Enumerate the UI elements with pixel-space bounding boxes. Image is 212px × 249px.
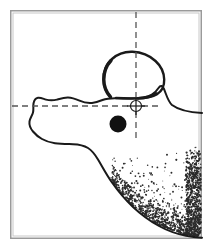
stipple-dot xyxy=(130,172,132,174)
stipple-dot xyxy=(189,204,191,206)
stipple-dot xyxy=(200,203,202,205)
stipple-dot xyxy=(181,197,183,199)
stipple-dot xyxy=(194,150,195,151)
stipple-dot xyxy=(157,220,159,222)
stipple-dot xyxy=(199,171,200,172)
stipple-dot xyxy=(138,194,139,195)
stipple-dot xyxy=(193,165,194,166)
stipple-dot xyxy=(158,212,159,213)
stipple-dot xyxy=(128,200,129,201)
stipple-dot xyxy=(172,219,174,221)
stipple-dot xyxy=(148,190,149,191)
stipple-dot xyxy=(138,204,140,206)
stipple-dot xyxy=(139,189,141,191)
stipple-dot xyxy=(195,200,197,202)
stipple-dot xyxy=(197,210,199,212)
stipple-dot xyxy=(129,158,131,160)
stipple-dot xyxy=(198,191,200,193)
stipple-dot xyxy=(173,207,175,209)
stipple-dot xyxy=(158,218,159,219)
stipple-dot xyxy=(168,223,169,224)
stipple-dot xyxy=(141,211,142,212)
stipple-dot xyxy=(122,167,124,169)
stipple-dot xyxy=(165,202,166,203)
stipple-dot xyxy=(124,180,125,181)
stipple-dot xyxy=(193,197,194,198)
stipple-dot xyxy=(157,218,158,219)
figure-root: Lateral anatomical outline tracing with … xyxy=(0,0,212,249)
stipple-dot xyxy=(195,179,197,181)
stipple-dot xyxy=(162,225,163,226)
stipple-dot xyxy=(184,204,186,206)
stipple-dot xyxy=(125,187,126,188)
stipple-dot xyxy=(136,195,137,196)
stipple-dot xyxy=(181,220,183,222)
stipple-dot xyxy=(138,199,139,200)
stipple-dot xyxy=(164,220,166,222)
stipple-dot xyxy=(189,173,190,174)
stipple-dot xyxy=(191,171,192,172)
stipple-dot xyxy=(180,227,182,229)
stipple-dot xyxy=(170,172,172,174)
stipple-dot xyxy=(162,215,163,216)
stipple-dot xyxy=(138,172,140,174)
stipple-dot xyxy=(149,204,151,206)
stipple-dot xyxy=(134,182,135,183)
stipple-dot xyxy=(157,166,159,168)
stipple-dot xyxy=(186,210,187,211)
stipple-dot xyxy=(193,209,194,210)
stipple-dot xyxy=(142,203,143,204)
stipple-dot xyxy=(150,174,151,175)
stipple-dot xyxy=(159,222,160,223)
stipple-dot xyxy=(187,192,189,194)
stipple-dot xyxy=(196,234,198,236)
stipple-dot xyxy=(184,200,186,202)
stipple-dot xyxy=(138,206,140,208)
stipple-dot xyxy=(148,201,150,203)
stipple-dot xyxy=(151,205,153,207)
stipple-dot xyxy=(136,190,137,191)
stipple-dot xyxy=(164,192,165,193)
stipple-dot xyxy=(186,166,188,168)
stipple-dot xyxy=(187,214,189,216)
stipple-dot xyxy=(183,206,184,207)
stipple-dot xyxy=(124,192,125,193)
stipple-dot xyxy=(191,176,192,177)
stipple-dot xyxy=(110,177,111,178)
stipple-dot xyxy=(179,227,181,229)
stipple-dot xyxy=(177,213,178,214)
stipple-dot xyxy=(112,165,113,166)
stipple-dot xyxy=(177,231,178,232)
stipple-dot xyxy=(195,151,196,152)
stipple-dot xyxy=(166,226,167,227)
stipple-dot xyxy=(135,200,137,202)
stipple-dot xyxy=(199,154,201,156)
stipple-dot xyxy=(199,157,200,158)
stipple-dot xyxy=(176,224,177,225)
stipple-dot xyxy=(144,191,146,193)
stipple-dot xyxy=(200,158,201,159)
stipple-dot xyxy=(157,203,159,205)
stipple-dot xyxy=(189,150,191,152)
stipple-dot xyxy=(181,203,182,204)
stipple-dot xyxy=(149,215,150,216)
stipple-dot xyxy=(166,219,168,221)
stipple-dot xyxy=(124,183,126,185)
stipple-dot xyxy=(143,173,144,174)
stipple-dot xyxy=(146,190,148,192)
stipple-dot xyxy=(114,179,116,181)
stipple-dot xyxy=(189,197,190,198)
stipple-dot xyxy=(152,217,153,218)
stipple-dot xyxy=(121,188,123,190)
stipple-dot xyxy=(192,195,193,196)
stipple-dot xyxy=(199,178,200,179)
stipple-dot xyxy=(162,186,164,188)
stipple-dot xyxy=(188,202,189,203)
stipple-dot xyxy=(123,189,124,190)
stipple-dot xyxy=(152,198,153,199)
stipple-dot xyxy=(182,190,183,191)
stipple-dot xyxy=(133,187,135,189)
stipple-dot xyxy=(193,200,194,201)
stipple-dot xyxy=(186,194,188,196)
stipple-dot xyxy=(175,203,176,204)
